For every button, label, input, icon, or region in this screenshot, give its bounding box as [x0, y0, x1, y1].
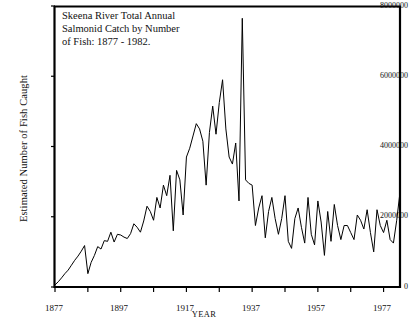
y-tick-label-0: 0 — [356, 282, 408, 291]
y-tick-label-2000000: 2000000 — [356, 211, 408, 220]
y-tick-label-8000000: 8000000 — [356, 1, 408, 10]
data-series-line — [55, 18, 400, 285]
chart-title: Skeena River Total Annual Salmonid Catch… — [62, 9, 272, 49]
y-tick-label-6000000: 6000000 — [356, 71, 408, 80]
y-axis-title: Estimated Number of Fish Caught — [18, 34, 29, 264]
x-axis-title: YEAR — [0, 309, 408, 319]
y-tick-label-4000000: 4000000 — [356, 141, 408, 150]
